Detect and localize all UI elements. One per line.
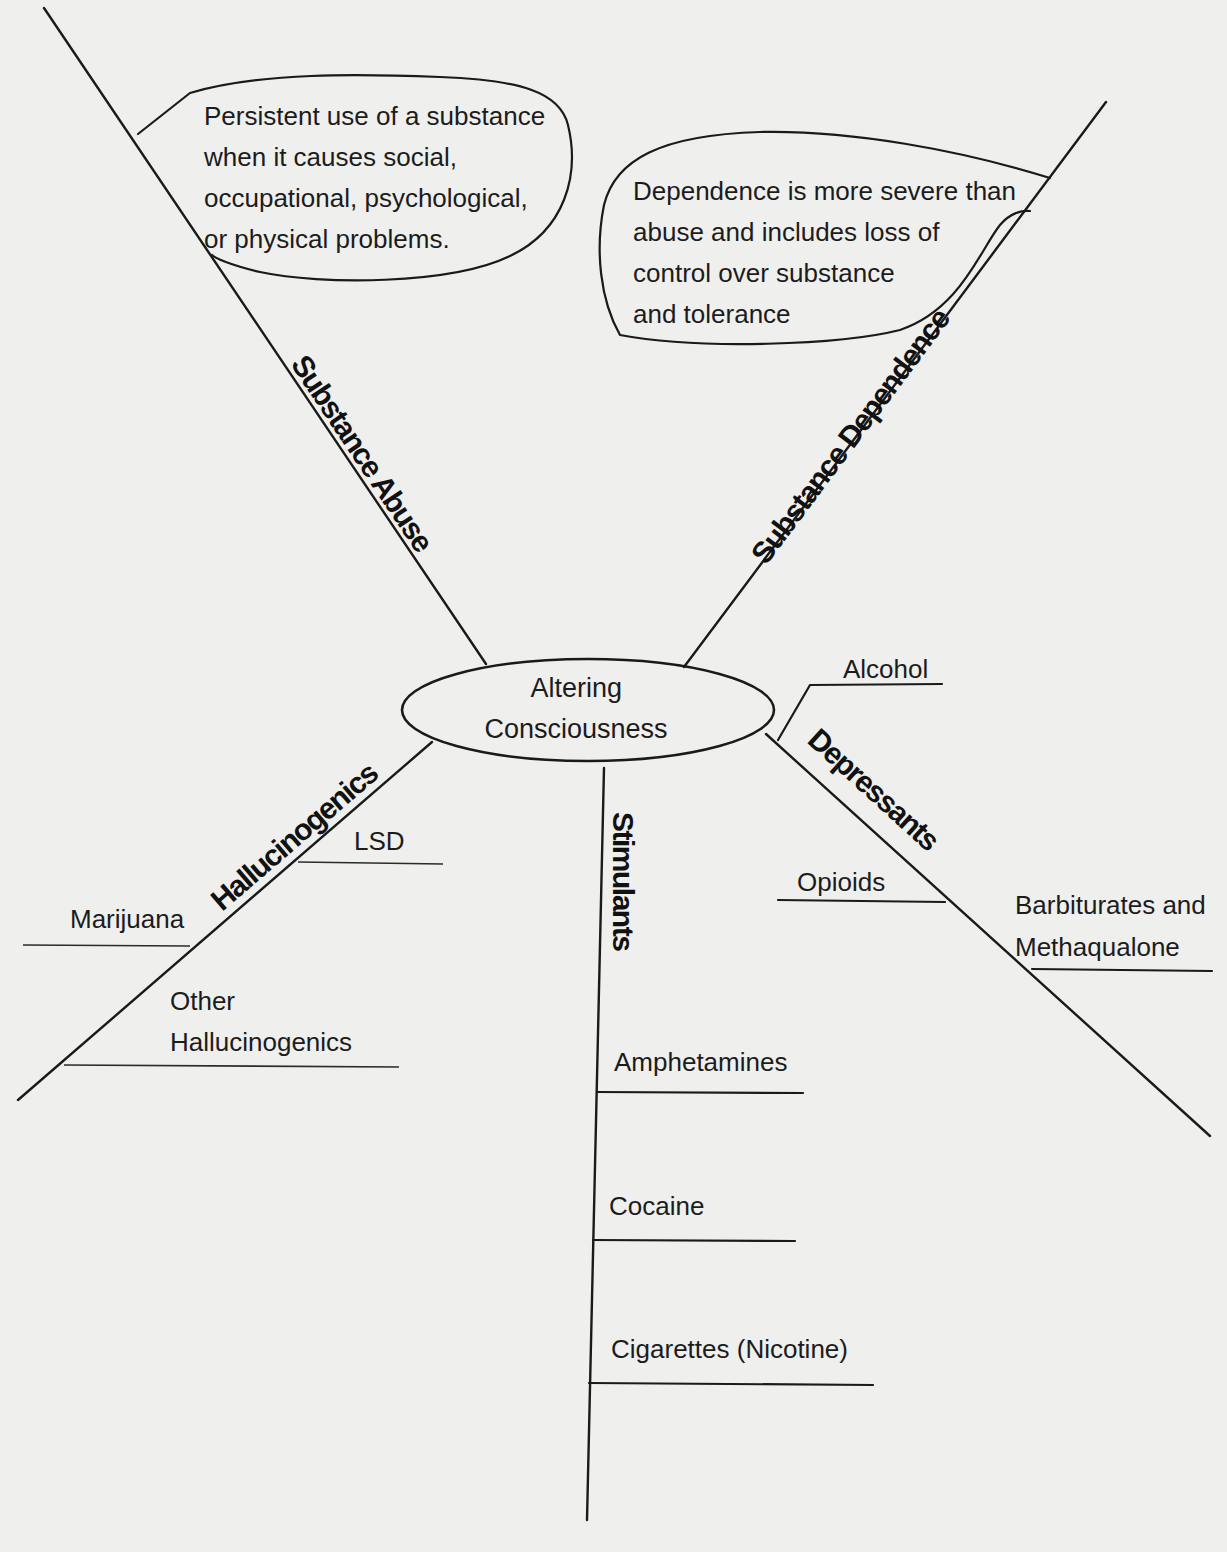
branch-depressants: Depressants Alcohol Opioids Barbiturates…	[766, 654, 1213, 1136]
item-lsd: LSD	[354, 826, 405, 856]
item-cigarettes-nicotine: Cigarettes (Nicotine)	[611, 1334, 848, 1364]
item-underline-amphetamines	[597, 1092, 803, 1093]
callout-text-substance-abuse: Persistent use of a substance when it ca…	[203, 101, 552, 254]
item-amphetamines: Amphetamines	[614, 1047, 787, 1077]
item-underline-opioids	[778, 900, 945, 902]
item-opioids: Opioids	[797, 867, 885, 897]
item-barbiturates-methaqualone: Barbiturates and Methaqualone	[1015, 890, 1213, 962]
item-underline-cigarettes	[589, 1383, 873, 1385]
branch-substance-abuse: Persistent use of a substance when it ca…	[44, 8, 572, 664]
mind-map-diagram: Persistent use of a substance when it ca…	[0, 0, 1227, 1552]
branch-label-substance-abuse: Substance Abuse	[285, 349, 440, 558]
item-underline-marijuana	[23, 945, 190, 946]
center-label: Altering Consciousness	[484, 673, 667, 744]
item-alcohol: Alcohol	[843, 654, 928, 684]
item-marijuana: Marijuana	[70, 904, 185, 934]
branch-label-depressants: Depressants	[802, 722, 946, 857]
branch-hallucinogenics: Hallucinogenics LSD Marijuana Other Hall…	[18, 742, 443, 1100]
item-underline-barbiturates	[1032, 969, 1212, 971]
center-node: Altering Consciousness	[402, 659, 774, 761]
callout-text-substance-dependence: Dependence is more severe than abuse and…	[633, 176, 1023, 329]
item-underline-cocaine	[593, 1240, 795, 1241]
item-underline-lsd	[298, 862, 443, 864]
branch-substance-dependence: Dependence is more severe than abuse and…	[600, 102, 1106, 667]
branch-label-stimulants: Stimulants	[607, 812, 640, 951]
item-cocaine: Cocaine	[609, 1191, 704, 1221]
item-other-hallucinogenics: Other Hallucinogenics	[170, 986, 352, 1057]
item-underline-alcohol	[778, 684, 942, 740]
branch-label-substance-dependence: Substance Dependence	[744, 302, 956, 569]
branch-line-stimulants	[587, 768, 604, 1520]
item-underline-other-hallucinogenics	[64, 1065, 399, 1067]
